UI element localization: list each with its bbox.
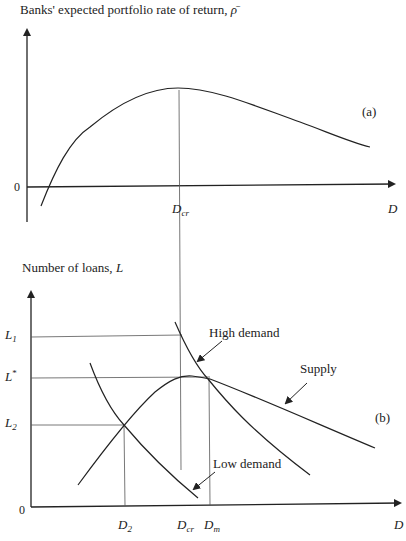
tick-main: D	[204, 517, 213, 532]
panel-b-x-axis-label: D	[394, 517, 403, 533]
panel-b-label: (b)	[375, 410, 390, 426]
tick-sub: 2	[127, 524, 132, 534]
panel-a-y-axis-title: Banks' expected portfolio rate of return…	[20, 2, 231, 17]
lstar-guide	[31, 377, 210, 378]
rho-bar-symbol: ρ̄	[231, 2, 237, 17]
high-demand-curve	[175, 322, 310, 475]
high-demand-label: High demand	[209, 325, 279, 341]
panel-a	[27, 30, 394, 470]
tick-main: D	[172, 201, 181, 216]
tick-main: D	[118, 517, 127, 532]
panel-a-dcr-tick: Dcr	[172, 201, 189, 218]
panel-b-origin: 0	[19, 503, 25, 518]
tick-sub: cr	[186, 524, 194, 534]
l1-tick: L1	[5, 327, 17, 344]
supply-label: Supply	[300, 361, 337, 377]
tick-sub: cr	[181, 208, 189, 218]
panel-a-x-axis-label: D	[388, 201, 397, 217]
d2-tick: D2	[118, 517, 132, 534]
panel-a-x-axis	[27, 184, 394, 187]
supply-pointer	[286, 383, 307, 403]
low-demand-pointer	[194, 472, 215, 489]
dcr-guide-line	[179, 90, 181, 470]
panel-b-x-axis	[31, 503, 400, 507]
dcr-tick: Dcr	[177, 517, 194, 534]
expected-return-curve	[41, 88, 370, 206]
low-demand-label: Low demand	[213, 456, 281, 472]
panel-b-y-axis-title: Number of loans,	[22, 260, 116, 275]
high-demand-pointer	[198, 341, 222, 361]
tick-sub: 2	[12, 422, 17, 432]
tick-sup: *	[12, 368, 17, 378]
panel-a-origin: 0	[14, 180, 20, 195]
l1-guide	[31, 335, 182, 337]
l2-tick: L2	[5, 415, 17, 432]
tick-main: D	[177, 517, 186, 532]
dm-tick: Dm	[204, 517, 220, 534]
l-symbol: L	[116, 260, 123, 275]
dm-guide	[209, 378, 210, 505]
panel-a-label: (a)	[362, 104, 376, 120]
panel-a-y-axis-label: Banks' expected portfolio rate of return…	[20, 2, 237, 18]
tick-sub: m	[213, 524, 220, 534]
lstar-tick: L*	[5, 368, 17, 385]
tick-sub: 1	[12, 334, 17, 344]
panel-b-y-axis-label: Number of loans, L	[22, 260, 123, 276]
d2-guide	[124, 425, 125, 506]
low-demand-curve	[90, 363, 198, 498]
